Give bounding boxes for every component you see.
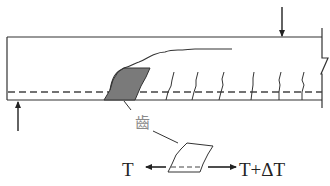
free-body-tooth <box>168 143 213 172</box>
tooth-label: 齒 <box>135 114 150 132</box>
beam-diagram: 齒 T T+ΔT <box>0 0 330 186</box>
flexural-cracks <box>166 72 304 100</box>
left-force-label: T <box>122 159 134 180</box>
right-force-label: T+ΔT <box>239 159 286 180</box>
leader-line-upper <box>124 101 131 110</box>
leader-line-lower <box>153 131 178 143</box>
